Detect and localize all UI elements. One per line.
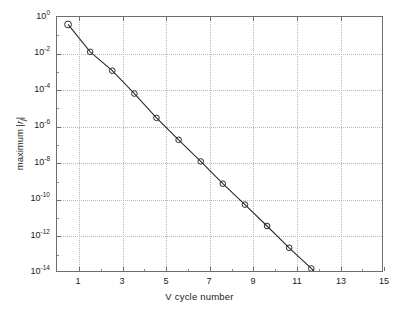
x-tick-label-13: 13 xyxy=(330,277,352,286)
x-tick-label-9: 9 xyxy=(242,277,264,286)
y-tick-label-1e0: 100 xyxy=(36,12,50,21)
x-tick-label-15: 15 xyxy=(373,277,395,286)
y-tick-label-1e-10: 10-10 xyxy=(31,194,50,203)
y-tick-exponent: -12 xyxy=(41,228,50,235)
plot-area xyxy=(56,16,383,272)
y-axis-title-symbol: r xyxy=(14,121,25,124)
data-layer xyxy=(57,17,382,271)
y-tick-label-1e-2: 10-2 xyxy=(34,48,50,57)
x-tick-label-1: 1 xyxy=(67,277,89,286)
residual-markers xyxy=(65,21,381,271)
y-tick-label-1e-12: 10-12 xyxy=(31,231,50,240)
y-axis-title-suffix: | xyxy=(14,117,25,119)
y-tick-exponent: -10 xyxy=(41,191,50,198)
y-tick-label-1e-14: 10-14 xyxy=(31,267,50,276)
y-axis-title-prefix: maximum | xyxy=(14,124,25,170)
y-tick-exponent: -8 xyxy=(44,155,50,162)
residual-line xyxy=(68,24,378,271)
y-tick-exponent: -4 xyxy=(44,82,50,89)
y-tick-exponent: -14 xyxy=(41,264,50,271)
residual-series xyxy=(57,17,382,271)
x-axis-title: V cycle number xyxy=(0,291,399,302)
x-tick-label-11: 11 xyxy=(286,277,308,286)
y-tick-label-1e-6: 10-6 xyxy=(34,121,50,130)
x-tick-label-7: 7 xyxy=(198,277,220,286)
x-tick-label-5: 5 xyxy=(155,277,177,286)
x-tick-15 xyxy=(384,267,385,271)
y-tick-label-1e-4: 10-4 xyxy=(34,85,50,94)
y-tick-exponent: -6 xyxy=(44,118,50,125)
y-tick-exponent: -2 xyxy=(44,45,50,52)
figure-canvas: maximum |rj| V cycle number 100 10-2 10-… xyxy=(0,0,399,316)
y-axis-title: maximum |rj| xyxy=(14,74,25,214)
y-tick-label-1e-8: 10-8 xyxy=(34,158,50,167)
x-tick-label-3: 3 xyxy=(111,277,133,286)
y-tick-exponent: 0 xyxy=(46,9,50,16)
